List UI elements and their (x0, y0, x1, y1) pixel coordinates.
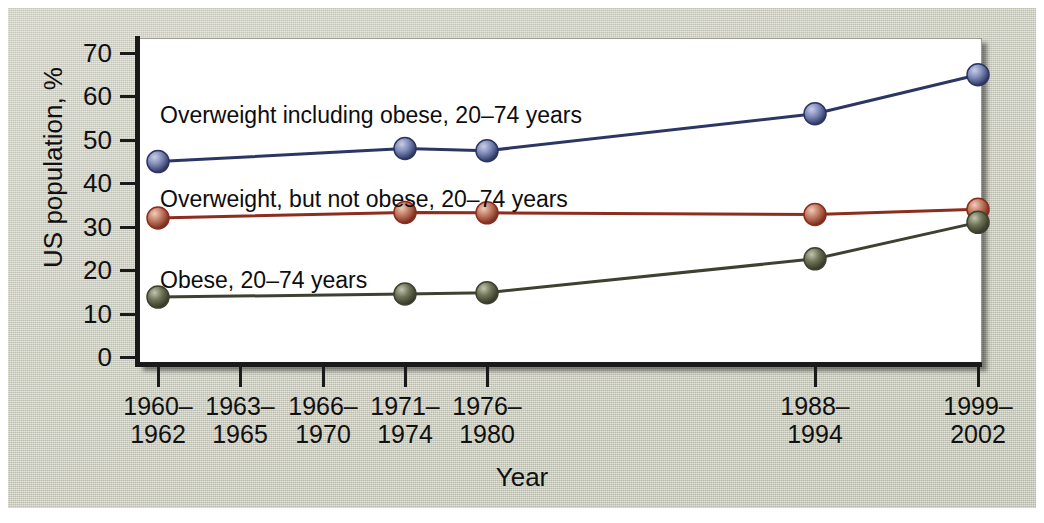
x-tick-4 (486, 367, 489, 387)
x-tick-1 (239, 367, 242, 387)
y-tick-10 (120, 313, 136, 316)
y-tick-40 (120, 182, 136, 185)
chart-figure: 010203040506070 1960–19621963–19651966–1… (0, 0, 1044, 523)
y-tick-70 (120, 52, 136, 55)
x-tick-label-5: 1988–1994 (750, 392, 880, 448)
x-tick-label-line: 1999– (913, 392, 1043, 420)
x-tick-6 (977, 367, 980, 387)
x-tick-5 (814, 367, 817, 387)
x-tick-label-line: 1976– (422, 392, 552, 420)
y-tick-label-40: 40 (66, 170, 112, 196)
x-tick-0 (157, 367, 160, 387)
x-tick-label-line: 1994 (750, 420, 880, 448)
series-annotation-0: Overweight including obese, 20–74 years (160, 104, 582, 127)
x-tick-label-line: 1980 (422, 420, 552, 448)
x-tick-label-line: 2002 (913, 420, 1043, 448)
series-annotation-2: Obese, 20–74 years (160, 269, 367, 292)
x-axis-spine (135, 362, 982, 367)
y-tick-label-20: 20 (66, 257, 112, 283)
x-tick-3 (404, 367, 407, 387)
y-tick-50 (120, 139, 136, 142)
y-tick-label-60: 60 (66, 83, 112, 109)
y-axis-label: US population, % (38, 53, 69, 283)
y-axis-spine (135, 36, 140, 366)
series-annotation-1: Overweight, but not obese, 20–74 years (160, 188, 568, 211)
y-tick-label-30: 30 (66, 214, 112, 240)
y-tick-60 (120, 95, 136, 98)
x-axis-label: Year (0, 462, 1044, 493)
x-tick-2 (322, 367, 325, 387)
y-tick-0 (120, 356, 136, 359)
y-tick-label-70: 70 (66, 40, 112, 66)
x-tick-label-6: 1999–2002 (913, 392, 1043, 448)
y-tick-20 (120, 269, 136, 272)
x-tick-label-4: 1976–1980 (422, 392, 552, 448)
y-tick-label-50: 50 (66, 127, 112, 153)
x-tick-label-line: 1988– (750, 392, 880, 420)
y-tick-label-0: 0 (66, 344, 112, 370)
y-tick-30 (120, 226, 136, 229)
y-tick-label-10: 10 (66, 301, 112, 327)
